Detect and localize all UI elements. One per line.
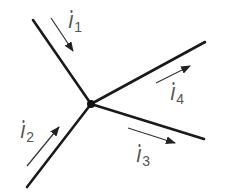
current-subscript: 1: [74, 19, 82, 35]
wire-upper-left: [33, 20, 91, 104]
current-subscript: 2: [26, 129, 34, 145]
current-label-4: I4: [170, 84, 184, 103]
current-symbol: I: [68, 12, 73, 31]
wire-upper-right: [91, 42, 205, 104]
current-subscript: 4: [176, 91, 184, 107]
junction-node: [87, 100, 95, 108]
current-symbol: I: [136, 146, 141, 165]
current-label-1: I1: [68, 12, 82, 31]
current-subscript: 3: [142, 153, 150, 169]
current-symbol: I: [170, 84, 175, 103]
current-symbol: I: [20, 122, 25, 141]
current-label-3: I3: [136, 146, 150, 165]
circuit-node-diagram: [0, 0, 226, 195]
current-arrow-4: [156, 66, 190, 83]
current-arrow-3: [128, 128, 175, 143]
current-label-2: I2: [20, 122, 34, 141]
wire-lower-left: [27, 104, 91, 187]
